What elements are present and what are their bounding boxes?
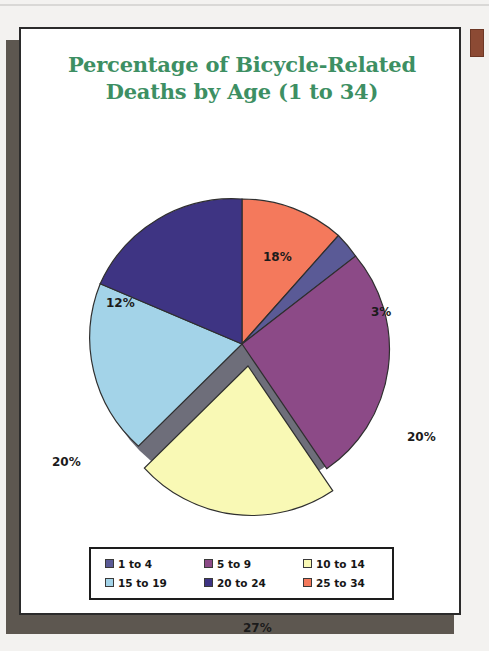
page-title: Percentage of Bicycle-Related Deaths by …: [51, 51, 433, 105]
scan-top-rule: [0, 4, 489, 6]
legend-label: 15 to 19: [118, 577, 167, 589]
legend-row: 15 to 19 20 to 24 25 to 34: [93, 573, 390, 592]
pie-label-5-to-9: 20%: [407, 430, 436, 444]
legend-item-15-to-19[interactable]: 15 to 19: [93, 577, 192, 589]
legend-swatch-icon: [204, 578, 213, 587]
pie-label-20-to-24: 12%: [106, 296, 135, 310]
legend-item-1-to-4[interactable]: 1 to 4: [93, 558, 192, 570]
legend-swatch-icon: [303, 578, 312, 587]
chart-title-line-2: Deaths by Age (1 to 34): [51, 78, 433, 105]
scan-canvas: Percentage of Bicycle-Related Deaths by …: [0, 0, 489, 651]
pie-chart-svg: [21, 124, 463, 544]
legend-item-25-to-34[interactable]: 25 to 34: [291, 577, 390, 589]
legend-label: 10 to 14: [316, 558, 365, 570]
chart-title-line-1: Percentage of Bicycle-Related: [68, 52, 416, 77]
legend-item-10-to-14[interactable]: 10 to 14: [291, 558, 390, 570]
legend-swatch-icon: [105, 559, 114, 568]
legend-swatch-icon: [204, 559, 213, 568]
legend-label: 25 to 34: [316, 577, 365, 589]
chart-legend: 1 to 4 5 to 9 10 to 14 15 to 19: [89, 547, 394, 600]
legend-swatch-icon: [303, 559, 312, 568]
legend-label: 5 to 9: [217, 558, 251, 570]
legend-item-20-to-24[interactable]: 20 to 24: [192, 577, 291, 589]
scan-corner-artifact: [470, 29, 484, 57]
legend-label: 20 to 24: [217, 577, 266, 589]
pie-label-1-to-4: 3%: [371, 305, 391, 319]
legend-item-5-to-9[interactable]: 5 to 9: [192, 558, 291, 570]
pie-label-10-to-14: 27%: [243, 621, 272, 635]
paper-sheet: Percentage of Bicycle-Related Deaths by …: [19, 27, 461, 615]
legend-row: 1 to 4 5 to 9 10 to 14: [93, 554, 390, 573]
pie-label-15-to-19: 20%: [52, 455, 81, 469]
legend-label: 1 to 4: [118, 558, 152, 570]
pie-label-25-to-34: 18%: [263, 250, 292, 264]
legend-swatch-icon: [105, 578, 114, 587]
pie-chart: 18% 3% 20% 27% 20% 12%: [21, 124, 463, 544]
